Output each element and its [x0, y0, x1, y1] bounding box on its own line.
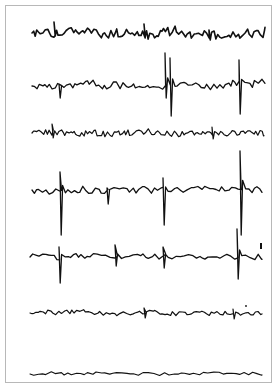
artifact-dot — [245, 305, 247, 307]
waveform-trace-1 — [32, 22, 265, 40]
waveform-trace-3 — [32, 124, 264, 139]
waveform-trace-6 — [30, 308, 262, 319]
waveform-trace-4 — [32, 151, 262, 235]
eeg-traces — [0, 0, 278, 389]
waveform-trace-5 — [30, 229, 262, 283]
waveform-trace-2 — [32, 53, 265, 116]
waveform-trace-7 — [30, 372, 262, 376]
